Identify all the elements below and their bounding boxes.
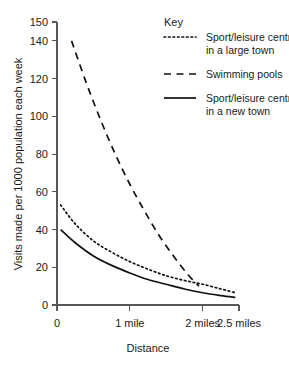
x-axis: 01 mile2 miles2.5 miles — [54, 305, 262, 329]
y-tick-label: 120 — [30, 73, 48, 85]
legend-label: Sport/leisure centre — [206, 92, 289, 104]
legend-label-line2: in a large town — [206, 44, 274, 56]
y-axis-tick-labels: 020406080100120140150 — [30, 16, 48, 311]
x-axis-tick-labels: 01 mile2 miles2.5 miles — [54, 317, 262, 329]
x-tick-label: 2 miles — [185, 317, 220, 329]
y-tick-label: 80 — [36, 148, 48, 160]
series-line — [61, 230, 236, 298]
chart-legend: Key Sport/leisure centrein a large townS… — [164, 16, 289, 117]
y-tick-label: 140 — [30, 35, 48, 47]
chart-figure: 020406080100120140150 01 mile2 miles2.5 … — [0, 0, 289, 367]
legend-items: Sport/leisure centrein a large townSwimm… — [164, 31, 289, 117]
x-axis-title: Distance — [127, 342, 170, 354]
y-tick-label: 100 — [30, 110, 48, 122]
y-tick-label: 40 — [36, 224, 48, 236]
x-tick-label: 0 — [54, 317, 60, 329]
chart-canvas: 020406080100120140150 01 mile2 miles2.5 … — [0, 0, 289, 367]
x-tick-label: 1 mile — [115, 317, 144, 329]
x-axis-ticks — [57, 305, 239, 311]
y-axis: 020406080100120140150 — [30, 16, 57, 311]
legend-label-line2: in a new town — [206, 105, 270, 117]
legend-label: Sport/leisure centre — [206, 31, 289, 43]
y-tick-label: 60 — [36, 186, 48, 198]
series-line — [72, 41, 199, 286]
y-tick-label: 150 — [30, 16, 48, 28]
y-axis-title: Visits made per 1000 population each wee… — [12, 57, 24, 270]
legend-label: Swimming pools — [206, 68, 282, 80]
y-tick-label: 0 — [42, 299, 48, 311]
legend-title: Key — [164, 16, 183, 28]
y-axis-ticks — [52, 22, 57, 305]
y-tick-label: 20 — [36, 261, 48, 273]
x-tick-label: 2.5 miles — [217, 317, 262, 329]
